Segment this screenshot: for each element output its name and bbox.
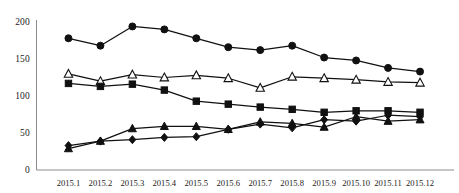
y-axis-tick-label: 100	[4, 91, 30, 101]
y-axis-tick-label: 150	[4, 54, 30, 64]
x-axis-tick-label: 2015.12	[399, 178, 441, 188]
chart-plot-area	[0, 0, 459, 193]
series-5-filled-triangle	[64, 113, 424, 152]
y-axis-tick-label: 50	[4, 128, 30, 138]
series-3-filled-square	[65, 80, 423, 115]
y-axis-tick-label: 0	[4, 165, 30, 175]
series-4-filled-diamond	[65, 111, 423, 149]
series-2-open-triangle	[64, 69, 424, 91]
series-1-filled-circle	[65, 23, 424, 75]
line-chart: 0501001502002015.12015.22015.32015.42015…	[0, 0, 459, 193]
y-axis-tick-label: 200	[4, 17, 30, 27]
